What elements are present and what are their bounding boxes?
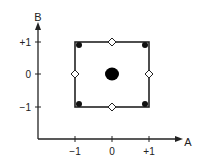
y-axis-label: B bbox=[34, 11, 41, 23]
edge-point-diamond-icon bbox=[108, 103, 116, 111]
y-tick-label: +1 bbox=[20, 37, 32, 48]
edge-point-diamond-icon bbox=[145, 70, 153, 78]
x-tick-label: +1 bbox=[143, 146, 155, 157]
center-point bbox=[105, 68, 119, 81]
x-tick-label: 0 bbox=[109, 146, 115, 157]
x-axis-arrow-icon bbox=[175, 136, 183, 142]
y-tick-label: −1 bbox=[20, 102, 32, 113]
corner-point bbox=[142, 101, 148, 107]
x-tick-label: −1 bbox=[69, 146, 81, 157]
edge-point-diamond-icon bbox=[108, 38, 116, 46]
corner-point bbox=[142, 42, 148, 48]
y-axis-arrow-icon bbox=[35, 22, 41, 30]
x-axis-label: A bbox=[184, 136, 192, 148]
corner-point bbox=[76, 101, 82, 107]
y-tick-label: 0 bbox=[25, 69, 31, 80]
factorial-design-diagram: B A +1 0 −1 −1 0 +1 bbox=[0, 0, 204, 164]
corner-point bbox=[76, 42, 82, 48]
edge-point-diamond-icon bbox=[71, 70, 79, 78]
